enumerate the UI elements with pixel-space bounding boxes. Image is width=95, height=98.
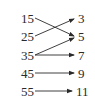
range-value-9: 9 — [78, 66, 85, 81]
domain-value-35: 35 — [21, 48, 34, 63]
range-value-5: 5 — [78, 29, 85, 44]
arrow-35-to-5 — [35, 38, 74, 55]
range-value-7: 7 — [78, 48, 85, 63]
domain-value-25: 25 — [21, 29, 34, 44]
domain-value-15: 15 — [21, 11, 34, 26]
range-value-3: 3 — [78, 11, 85, 26]
mapping-diagram: 15 25 35 45 55 3 5 7 9 11 — [0, 0, 95, 98]
domain-value-45: 45 — [21, 66, 34, 81]
range-value-11: 11 — [76, 84, 89, 98]
domain-value-55: 55 — [21, 84, 34, 98]
